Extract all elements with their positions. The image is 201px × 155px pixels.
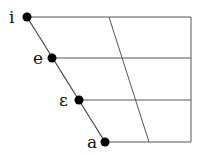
- vowel-dot-i: [23, 13, 32, 22]
- vowel-dot-e: [48, 54, 57, 63]
- vowel-chart: i e ε a: [0, 0, 201, 155]
- vowel-label-open-e: ε: [59, 90, 68, 110]
- vowel-label-a: a: [87, 132, 97, 152]
- vowel-label-i: i: [9, 7, 15, 27]
- front-edge: [27, 17, 105, 142]
- vowel-dot-a: [101, 138, 110, 147]
- vowel-dot-open-e: [75, 96, 84, 105]
- vowel-label-e: e: [33, 48, 43, 68]
- central-line: [109, 17, 149, 142]
